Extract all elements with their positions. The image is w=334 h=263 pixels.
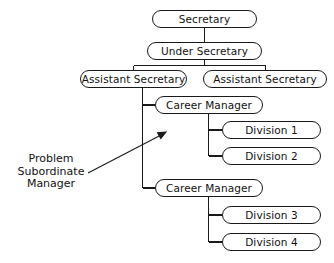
node-assistant-secretary-left-label: Assistant Secretary — [82, 74, 186, 85]
org-chart-diagram: Secretary Under Secretary Assistant Secr… — [0, 0, 334, 263]
node-assistant-secretary-left[interactable]: Assistant Secretary — [80, 70, 187, 88]
node-career-manager-2[interactable]: Career Manager — [155, 179, 263, 197]
node-career-manager-1[interactable]: Career Manager — [155, 96, 263, 114]
node-secretary-label: Secretary — [179, 14, 230, 25]
node-under-secretary-label: Under Secretary — [161, 46, 248, 57]
annotation-problem-subordinate-manager: Problem Subordinate Manager — [8, 153, 94, 191]
node-secretary[interactable]: Secretary — [152, 10, 257, 28]
annotation-line-3: Manager — [8, 178, 94, 191]
node-division-4[interactable]: Division 4 — [222, 233, 321, 251]
annotation-line-1: Problem — [8, 153, 94, 166]
node-division-1-label: Division 1 — [245, 125, 298, 136]
node-division-1[interactable]: Division 1 — [222, 121, 321, 139]
node-division-3-label: Division 3 — [245, 210, 298, 221]
node-career-manager-2-label: Career Manager — [166, 183, 252, 194]
node-division-3[interactable]: Division 3 — [222, 206, 321, 224]
node-under-secretary[interactable]: Under Secretary — [147, 42, 262, 60]
node-division-4-label: Division 4 — [245, 237, 298, 248]
node-career-manager-1-label: Career Manager — [166, 100, 252, 111]
node-assistant-secretary-right[interactable]: Assistant Secretary — [203, 70, 327, 88]
node-division-2[interactable]: Division 2 — [222, 147, 321, 165]
node-division-2-label: Division 2 — [245, 151, 298, 162]
node-assistant-secretary-right-label: Assistant Secretary — [213, 74, 317, 85]
annotation-arrow — [88, 132, 166, 173]
